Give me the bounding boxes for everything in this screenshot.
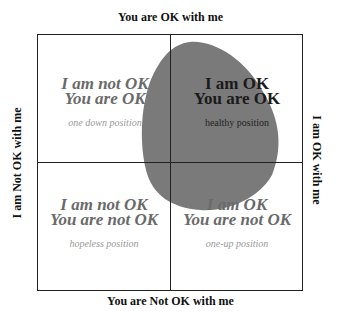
quadrant-top-right: I am OK You are OK healthy position — [172, 76, 302, 128]
quadrant-label: hopeless position — [38, 238, 170, 249]
quadrant-label: healthy position — [172, 117, 302, 128]
quadrant-bottom-left: I am not OK You are not OK hopeless posi… — [38, 197, 170, 249]
quadrant-bottom-right: I am OK You are not OK one-up position — [170, 197, 304, 249]
horizontal-divider — [37, 162, 303, 163]
quadrant-top-left: I am not OK You are OK one down position — [40, 76, 170, 128]
quadrant-line2: You are not OK — [38, 212, 170, 227]
quadrant-line2: You are OK — [40, 91, 170, 106]
quadrant-label: one down position — [40, 117, 170, 128]
quadrant-line2: You are not OK — [170, 212, 304, 227]
quadrant-line2: You are OK — [172, 91, 302, 106]
quadrant-label: one-up position — [170, 238, 304, 249]
